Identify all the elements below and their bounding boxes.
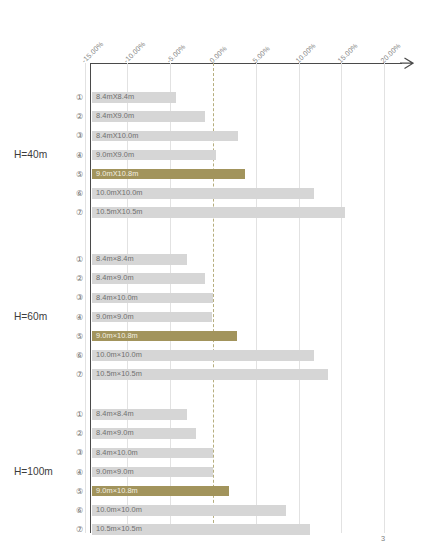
row-index-marker: ①: [72, 252, 86, 267]
chart-container: -15.00%-10.00%-5.00%0.00%5.00%10.00%15.0…: [0, 0, 433, 559]
bar-label: 9.0m×9.0m: [96, 312, 134, 323]
row-index-marker: ③: [72, 128, 86, 143]
bar-label: 10.0m×10.0m: [96, 505, 142, 516]
bar-row: ④9.0mX9.0m: [0, 148, 433, 163]
bar-label: 9.0mX9.0m: [96, 150, 134, 161]
row-index-marker: ⑤: [72, 329, 86, 344]
row-index-marker: ⑤: [72, 167, 86, 182]
axis-tick-label: -10.00%: [123, 40, 148, 65]
axis-tick-label: 10.00%: [294, 42, 317, 65]
bar-label: 8.4m×10.0m: [96, 293, 138, 304]
bar-row: ②8.4mX9.0m: [0, 109, 433, 124]
bar-label: 9.0m×10.8m: [96, 486, 138, 497]
row-index-marker: ⑦: [72, 367, 86, 382]
bar-row: ②8.4m×9.0m: [0, 426, 433, 441]
bar-row: ④9.0m×9.0m: [0, 310, 433, 325]
row-index-marker: ④: [72, 310, 86, 325]
bar-label: 8.4m×9.0m: [96, 273, 134, 284]
bar-row: ②8.4m×9.0m: [0, 271, 433, 286]
bar-label: 8.4m×10.0m: [96, 448, 138, 459]
row-index-marker: ④: [72, 148, 86, 163]
bar-row: ⑤9.0mX10.8m: [0, 167, 433, 182]
axis-tick-label: -15.00%: [80, 40, 105, 65]
page-number: 3: [381, 534, 385, 543]
bar-label: 9.0mX10.8m: [96, 169, 138, 180]
axis-tick-label: 5.00%: [251, 45, 271, 65]
bar-row: ⑦10.5m×10.5m: [0, 522, 433, 537]
axis-horizontal-line: [90, 63, 402, 64]
bar-label: 8.4m×9.0m: [96, 428, 134, 439]
axis-tick-label: 15.00%: [337, 42, 360, 65]
row-index-marker: ⑦: [72, 205, 86, 220]
bar-row: ⑦10.5mX10.5m: [0, 205, 433, 220]
bar-row: ⑦10.5m×10.5m: [0, 367, 433, 382]
bar-label: 10.5mX10.5m: [96, 207, 143, 218]
bar-label: 9.0m×10.8m: [96, 331, 138, 342]
bar-row: ③8.4mX10.0m: [0, 128, 433, 143]
axis-tick-label: -5.00%: [166, 43, 188, 65]
bar-row: ⑥10.0m×10.0m: [0, 348, 433, 363]
bar-label: 8.4m×8.4m: [96, 409, 134, 420]
row-index-marker: ③: [72, 445, 86, 460]
bar-label: 8.4m×8.4m: [96, 254, 134, 265]
bar-label: 8.4mX8.4m: [96, 92, 134, 103]
bar-label: 10.0mX10.0m: [96, 188, 143, 199]
bar-row: ④9.0m×9.0m: [0, 465, 433, 480]
bar-row: ⑥10.0mX10.0m: [0, 186, 433, 201]
bar-row: ⑤9.0m×10.8m: [0, 329, 433, 344]
row-index-marker: ⑦: [72, 522, 86, 537]
row-index-marker: ①: [72, 90, 86, 105]
bar-row: ③8.4m×10.0m: [0, 290, 433, 305]
bar-label: 10.5m×10.5m: [96, 369, 142, 380]
row-index-marker: ①: [72, 407, 86, 422]
bar-row: ③8.4m×10.0m: [0, 445, 433, 460]
bar-row: ⑤9.0m×10.8m: [0, 484, 433, 499]
bar-row: ⑥10.0m×10.0m: [0, 503, 433, 518]
bar-row: ①8.4mX8.4m: [0, 90, 433, 105]
row-index-marker: ⑥: [72, 186, 86, 201]
axis-arrow-icon: [400, 57, 414, 70]
bar-label: 8.4mX10.0m: [96, 131, 138, 142]
row-index-marker: ②: [72, 426, 86, 441]
row-index-marker: ⑥: [72, 503, 86, 518]
row-index-marker: ②: [72, 271, 86, 286]
bar-label: 10.5m×10.5m: [96, 524, 142, 535]
bar-label: 9.0m×9.0m: [96, 467, 134, 478]
row-index-marker: ③: [72, 290, 86, 305]
row-index-marker: ⑤: [72, 484, 86, 499]
bar-label: 10.0m×10.0m: [96, 350, 142, 361]
row-index-marker: ⑥: [72, 348, 86, 363]
bar-row: ①8.4m×8.4m: [0, 407, 433, 422]
bar-label: 8.4mX9.0m: [96, 111, 134, 122]
bar-row: ①8.4m×8.4m: [0, 252, 433, 267]
row-index-marker: ②: [72, 109, 86, 124]
axis-tick-label: 0.00%: [208, 45, 228, 65]
row-index-marker: ④: [72, 465, 86, 480]
